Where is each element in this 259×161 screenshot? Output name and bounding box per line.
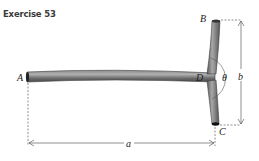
label-dimension-b: b — [238, 71, 243, 82]
label-point-a: A — [16, 72, 24, 83]
label-point-b: B — [200, 13, 206, 24]
pipe-segment-ad — [26, 70, 215, 82]
label-dimension-a: a — [126, 138, 131, 149]
label-point-d: D — [195, 72, 204, 83]
pipe-segment-db — [207, 20, 220, 75]
dimension-a — [28, 83, 215, 148]
label-point-c: C — [219, 126, 226, 137]
pipe-segment-dc — [207, 80, 219, 126]
label-theta: θ — [222, 72, 227, 83]
pipe-assembly-diagram: A B C D θ b a — [0, 0, 259, 161]
